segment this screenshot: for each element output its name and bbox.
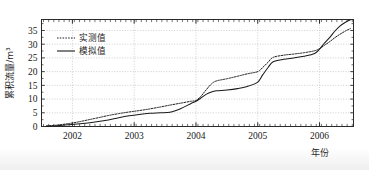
- legend-label-2: 模拟值: [79, 45, 106, 56]
- y-tick-label: 25: [28, 53, 38, 63]
- x-tick-label: 2006: [310, 131, 329, 141]
- x-tick-label: 2002: [63, 131, 82, 141]
- x-tick-label: 2004: [186, 131, 205, 141]
- y-axis-tick-labels: 05101520253035: [28, 26, 38, 132]
- y-axis-title-text: 累积流量/m³: [4, 47, 15, 99]
- legend-label-1: 实测值: [79, 32, 106, 43]
- y-tick-label: 5: [33, 108, 38, 118]
- cumulative-flow-chart: 05101520253035 20022003200420052006 累积流量…: [0, 0, 369, 170]
- y-axis-title: 累积流量/m³: [4, 47, 15, 99]
- x-axis-tick-labels: 20022003200420052006: [63, 131, 329, 141]
- y-tick-label: 30: [28, 40, 38, 50]
- x-axis-title-text: 年份: [311, 147, 329, 158]
- y-tick-label: 20: [28, 67, 38, 77]
- x-tick-label: 2005: [248, 131, 267, 141]
- y-tick-label: 10: [28, 94, 38, 104]
- y-tick-label: 0: [33, 122, 38, 132]
- x-axis-minor-ticks-top: [44, 20, 353, 23]
- x-tick-label: 2003: [125, 131, 144, 141]
- x-axis-minor-ticks: [44, 124, 353, 127]
- y-tick-label: 35: [28, 26, 38, 36]
- y-tick-label: 15: [28, 81, 38, 91]
